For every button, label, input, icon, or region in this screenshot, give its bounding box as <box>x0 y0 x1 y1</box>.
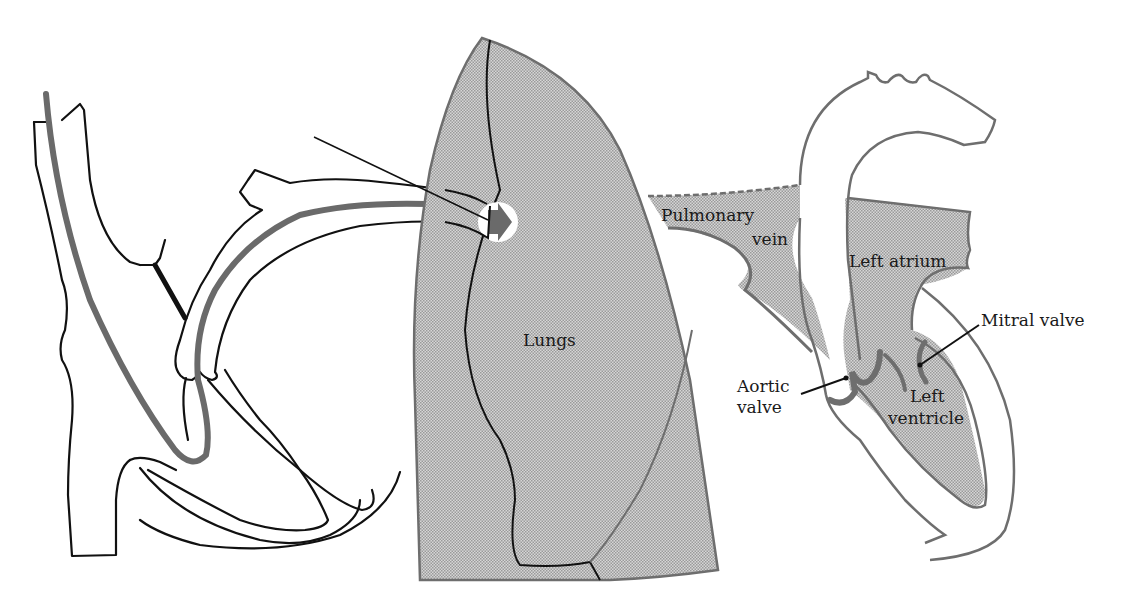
lungs <box>414 38 718 580</box>
label-left-ventricle-line2: ventricle <box>888 408 964 428</box>
label-mitral-valve: Mitral valve <box>981 310 1085 330</box>
label-aortic-valve-line2: valve <box>737 397 782 417</box>
label-aortic-valve-line1: Aortic <box>737 376 789 396</box>
label-lungs: Lungs <box>523 330 576 350</box>
label-left-ventricle-line1: Left <box>910 386 944 406</box>
label-left-atrium: Left atrium <box>849 251 946 271</box>
label-pulmonary-vein-line1: Pulmonary <box>661 205 754 225</box>
right-heart <box>34 104 445 556</box>
anatomy-diagram: Lungs Pulmonary vein Left atrium Mitral … <box>0 0 1129 606</box>
label-pulmonary-vein-line2: vein <box>752 229 788 249</box>
diagram-artwork <box>0 0 1129 606</box>
